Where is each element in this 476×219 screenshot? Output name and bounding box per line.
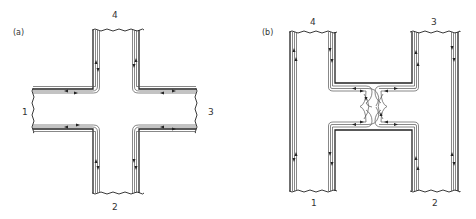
arrow-up-icon [415, 50, 418, 54]
figure-canvas: (a) 4 2 1 3 [0, 0, 476, 219]
arrow-down-icon [331, 59, 334, 63]
terminal-3-label: 3 [208, 107, 214, 117]
arrow-right-icon [172, 128, 176, 131]
arrow-left-icon [384, 90, 388, 93]
arrow-up-icon [95, 159, 98, 163]
arrow-left-icon [384, 121, 388, 124]
top-right-cut-edge [410, 31, 460, 33]
arrow-up-icon [135, 58, 138, 62]
boundary-bottom-right [139, 129, 196, 193]
arrow-right-icon [360, 121, 364, 124]
terminal-4-label: 4 [310, 17, 316, 27]
arrow-left-icon [352, 123, 356, 126]
arrow-up-icon [295, 152, 298, 156]
arrow-down-icon [133, 64, 136, 68]
panel-a-label: (a) [13, 28, 24, 37]
right-cut-edge [195, 88, 197, 133]
direction-arrows-b [293, 46, 456, 170]
arrow-right-icon [74, 92, 78, 95]
arrow-down-icon [331, 162, 334, 166]
arrow-right-icon [360, 90, 364, 93]
edge-channels-b [293, 32, 456, 191]
arrow-down-icon [135, 166, 138, 170]
arrow-down-icon [97, 166, 100, 170]
arrow-up-icon [417, 62, 420, 66]
bottom-right-cut-edge [410, 190, 460, 192]
arrow-down-icon [453, 58, 456, 62]
boundary-top-right [139, 30, 196, 89]
arrow-down-icon [451, 46, 454, 50]
terminal-3-label: 3 [431, 17, 437, 27]
terminal-1-label: 1 [311, 198, 317, 208]
arrow-right-icon [76, 124, 80, 127]
terminal-1-label: 1 [22, 107, 28, 117]
boundary-bottom-left [33, 129, 93, 193]
arrow-up-icon [415, 156, 418, 160]
boundary-upper-notch [335, 32, 412, 83]
arrow-left-icon [352, 87, 356, 90]
edge-channels-a [33, 30, 196, 193]
arrow-left-icon [64, 90, 68, 93]
terminal-2-label: 2 [432, 198, 438, 208]
arrow-right-icon [172, 90, 176, 93]
terminal-4-label: 4 [112, 10, 118, 20]
direction-arrows-a [64, 58, 176, 170]
arrow-down-icon [453, 162, 456, 166]
arrow-down-icon [133, 159, 136, 163]
arrow-up-icon [295, 57, 298, 61]
arrow-down-icon [97, 68, 100, 72]
left-cut-edge [32, 88, 34, 133]
panel-b-label: (b) [262, 28, 273, 37]
boundary-lower-notch [335, 130, 412, 191]
arrow-left-icon [64, 126, 68, 129]
terminal-2-label: 2 [112, 202, 118, 212]
arrow-down-icon [329, 48, 332, 52]
arrow-up-icon [293, 48, 296, 52]
panel-b: (b) 4 3 1 2 [262, 17, 460, 208]
arrow-up-icon [417, 166, 420, 170]
panel-a: (a) 4 2 1 3 [13, 10, 214, 212]
arrow-right-icon [394, 123, 398, 126]
boundary-top-left [33, 30, 93, 89]
arrow-up-icon [95, 60, 98, 64]
arrow-left-icon [160, 92, 164, 95]
arrow-left-icon [160, 126, 164, 129]
arrow-up-icon [451, 152, 454, 156]
arrow-down-icon [293, 158, 296, 162]
arrow-down-icon [329, 152, 332, 156]
arrow-right-icon [394, 87, 398, 90]
